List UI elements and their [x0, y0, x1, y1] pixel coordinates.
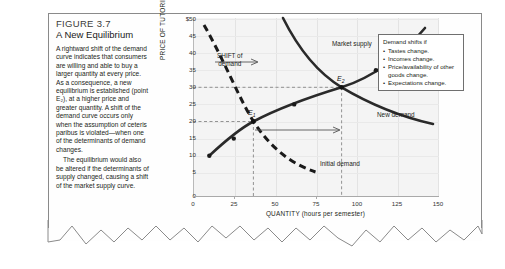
x-tick-125: 125 — [385, 200, 409, 207]
y-tick-45: 45 — [189, 32, 196, 39]
legend-item: Tastes change. — [383, 47, 459, 55]
legend-item: Price/availability of other goods change… — [383, 63, 459, 79]
equilibrium-point-e1 — [251, 119, 256, 124]
y-tick-30: 30 — [189, 83, 196, 90]
new-demand-label: New demand — [377, 111, 415, 118]
x-tick-75: 75 — [304, 200, 328, 207]
e1-label: E1 — [248, 109, 255, 118]
y-tick-25: 25 — [189, 100, 196, 107]
legend-list: Tastes change. Incomes change. Price/ava… — [383, 47, 459, 87]
x-axis-label: QUANTITY (hours per semester) — [193, 210, 438, 217]
shift-label-line2: demand — [218, 60, 241, 67]
x-tick-100: 100 — [345, 200, 369, 207]
x-tick-50: 50 — [263, 200, 287, 207]
torn-paper-edge — [46, 220, 486, 250]
x-tickmark-50 — [234, 196, 235, 199]
legend-title: Demand shifts if — [383, 38, 459, 46]
figure-title: A New Equilibrium — [56, 29, 150, 41]
figure-page: FIGURE 3.7 A New Equilibrium A rightward… — [0, 0, 505, 269]
x-tick-150: 150 — [426, 200, 450, 207]
legend-item: Expectations change. — [383, 79, 459, 87]
sheet-right-border — [481, 13, 482, 228]
shift-annotation: SHIFT of demand — [217, 52, 242, 68]
y-tick-20: 20 — [189, 117, 196, 124]
y-tick-40: 40 — [189, 49, 196, 56]
sheet-top-border — [48, 13, 482, 14]
initial-demand-label: Initial demand — [320, 160, 360, 167]
figure-caption-column: FIGURE 3.7 A New Equilibrium A rightward… — [56, 18, 150, 190]
e2-label: E2 — [337, 75, 344, 84]
sheet-left-border — [48, 13, 49, 228]
x-tick-25: 25 — [222, 200, 246, 207]
shift-arrow-lower — [255, 127, 340, 133]
y-tick-10: 10 — [189, 151, 196, 158]
x-tickmark-100 — [316, 196, 317, 199]
caption-paragraph-2: The equilibrium would also be altered if… — [56, 156, 150, 190]
y-tick-35: 35 — [189, 66, 196, 73]
legend-item: Incomes change. — [383, 55, 459, 63]
y-axis-label: PRICE OF TUTORING (per hour) — [159, 0, 166, 64]
e1-subscript: 1 — [253, 112, 256, 118]
figure-number: FIGURE 3.7 — [56, 18, 150, 29]
equilibrium-point-e2 — [339, 85, 344, 90]
market-supply-label: Market supply — [332, 40, 372, 47]
demand-shift-legend: Demand shifts if Tastes change. Incomes … — [378, 34, 464, 91]
e2-subscript: 2 — [342, 78, 345, 84]
caption-paragraph-1: A rightward shift of the demand curve in… — [56, 45, 150, 154]
y-tick-5: 5 — [193, 168, 196, 175]
x-tick-0: 0 — [181, 200, 205, 207]
y-tick-15: 15 — [189, 134, 196, 141]
shift-label-line1: SHIFT of — [217, 52, 242, 59]
y-tick-50: $50 — [186, 15, 196, 22]
